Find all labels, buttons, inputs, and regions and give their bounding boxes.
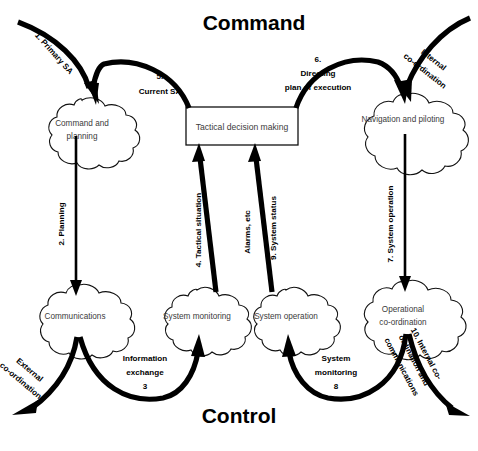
arrow-head-internal-coordination-out [445, 402, 470, 416]
node-label-system-operation: System operation [254, 312, 318, 321]
cloud-shape-system-monitoring [165, 287, 252, 356]
edge-label-system-monitoring-8-line1: System [322, 354, 351, 363]
edge-label-planning-line1: 2. Planning [57, 202, 66, 245]
arrow-head-tactical-situation [192, 143, 205, 162]
edge-label-information-exchange-line1: Information [123, 354, 168, 363]
node-command-planning: Command and planning [49, 98, 140, 169]
edge-label-system-operation-line1: 7. System operation [386, 185, 395, 262]
edge-label-alarms-etc: Alarms, etc [243, 210, 252, 254]
node-label-navigation-piloting: Navigation and piloting [362, 115, 445, 124]
node-label-communications: Communications [45, 312, 106, 321]
edge-label-alarms-etc-line1: Alarms, etc [243, 210, 252, 254]
edge-label-directing-plan-line3: plan of execution [285, 83, 352, 92]
edge-label-current-sa-line1: 5. [157, 72, 164, 81]
node-label-system-monitoring: System monitoring [163, 312, 231, 321]
edge-label-system-monitoring-8-line3: 8 [334, 382, 339, 391]
edge-label-planning: 2. Planning [57, 202, 66, 245]
node-label-operational-coordination-line2: co-ordination [379, 318, 427, 327]
edge-label-information-exchange-line2: exchange [126, 368, 164, 377]
arrow-head-system-status [248, 143, 261, 162]
node-system-operation: System operation [254, 287, 341, 356]
cloud-shape-navigation-piloting [364, 93, 468, 174]
node-tactical-decision-making: Tactical decision making [186, 107, 298, 145]
node-system-monitoring: System monitoring [163, 287, 251, 356]
node-label-command-planning-line2: planning [67, 132, 98, 141]
edge-label-information-exchange-line3: 3 [143, 382, 148, 391]
command-control-diagram: Command and planning Navigation and pilo… [0, 0, 478, 451]
edge-label-external-coordination: External co-ordination [0, 350, 52, 401]
edge-label-system-monitoring-8: System monitoring 8 [315, 354, 357, 391]
node-communications: Communications [40, 284, 135, 359]
edge-label-system-status-line1: 9. System status [269, 196, 278, 260]
edge-path-current-sa [93, 62, 189, 108]
diagram-canvas: Command and planning Navigation and pilo… [0, 0, 478, 451]
node-label-operational-coordination-line1: Operational [382, 305, 425, 314]
cloud-shape-system-operation [254, 287, 341, 356]
box-label-tactical-decision: Tactical decision making [196, 122, 289, 132]
diagram-title-control: Control [202, 404, 277, 427]
edge-label-system-status: 9. System status [269, 196, 278, 260]
edge-label-tactical-situation-line1: 4. Tactical situation [194, 193, 203, 268]
node-label-command-planning-line1: Command and [55, 119, 109, 128]
node-navigation-piloting: Navigation and piloting [362, 93, 469, 174]
edge-label-tactical-situation: 4. Tactical situation [194, 193, 203, 268]
edge-label-system-monitoring-8-line2: monitoring [315, 368, 357, 377]
edge-label-information-exchange: Information exchange 3 [123, 354, 168, 391]
edge-label-system-operation: 7. System operation [386, 185, 395, 262]
edge-label-directing-plan-line1: 6. [315, 55, 322, 64]
edge-label-current-sa-line2: Current SA [139, 87, 182, 96]
diagram-title-command: Command [203, 11, 306, 34]
edge-current-sa [87, 62, 189, 108]
cloud-shape-communications [40, 284, 135, 359]
arrow-head-external-coordination [12, 400, 38, 415]
edge-label-directing-plan-line2: Directing [300, 69, 335, 78]
